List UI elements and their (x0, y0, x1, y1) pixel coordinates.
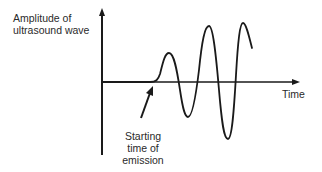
x-axis-arrowhead-icon (292, 79, 300, 85)
starting-time-annotation: Starting time of emission (120, 130, 166, 166)
annotation-arrow-shaft (141, 93, 150, 118)
y-axis-label-line1: Amplitude of (13, 12, 89, 24)
annotation-line2: time of (120, 142, 166, 154)
annotation-line3: emission (120, 154, 166, 166)
ultrasound-wave-curve (102, 23, 252, 139)
x-axis-label: Time (282, 88, 305, 100)
y-axis-label-line2: ultrasound wave (13, 24, 89, 36)
annotation-line1: Starting (120, 130, 166, 142)
annotation-arrowhead-icon (146, 86, 153, 96)
y-axis-arrowhead-icon (99, 8, 105, 16)
y-axis-label: Amplitude of ultrasound wave (13, 12, 89, 36)
